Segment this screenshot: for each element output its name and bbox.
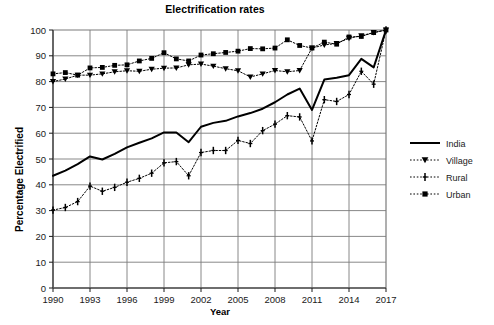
x-axis-ticks: 1990199319961999200220052008201120142017 xyxy=(42,288,396,305)
marker-square xyxy=(285,37,290,42)
marker-square xyxy=(162,50,167,55)
marker-square xyxy=(347,35,352,40)
marker-square xyxy=(186,59,191,64)
marker-square xyxy=(75,73,80,78)
y-tick-label: 50 xyxy=(35,154,46,165)
x-tick-label: 2005 xyxy=(227,294,248,305)
x-tick-label: 2017 xyxy=(375,294,396,305)
marker-square xyxy=(211,51,216,56)
marker-square xyxy=(248,46,253,51)
legend-item-india[interactable]: India xyxy=(410,139,466,149)
y-tick-label: 80 xyxy=(35,76,46,87)
y-tick-label: 90 xyxy=(35,50,46,61)
legend-item-village[interactable]: Village xyxy=(410,156,473,166)
marker-square xyxy=(359,34,364,39)
marker-square xyxy=(174,56,179,61)
marker-triangle-down xyxy=(247,74,253,79)
y-tick-label: 40 xyxy=(35,179,46,190)
marker-square xyxy=(236,49,241,54)
marker-square xyxy=(273,46,278,51)
marker-square xyxy=(63,70,68,75)
marker-square xyxy=(199,53,204,58)
marker-square xyxy=(223,50,228,55)
x-tick-label: 2002 xyxy=(190,294,211,305)
marker-square xyxy=(384,28,389,33)
series-urban xyxy=(51,28,389,78)
legend-item-urban[interactable]: Urban xyxy=(410,190,471,200)
legend-label-village: Village xyxy=(446,156,473,166)
marker-square xyxy=(422,191,427,196)
x-tick-label: 1993 xyxy=(79,294,100,305)
electrification-rates-chart: Electrification rates Percentage Electri… xyxy=(0,0,494,325)
marker-square xyxy=(137,59,142,64)
marker-square xyxy=(371,30,376,35)
y-tick-label: 10 xyxy=(35,257,46,268)
marker-square xyxy=(100,65,105,70)
y-tick-label: 70 xyxy=(35,102,46,113)
marker-square xyxy=(297,43,302,48)
x-tick-label: 2014 xyxy=(338,294,359,305)
marker-square xyxy=(112,63,117,68)
x-tick-label: 2008 xyxy=(264,294,285,305)
y-tick-label: 30 xyxy=(35,205,46,216)
legend-label-rural: Rural xyxy=(446,173,468,183)
marker-square xyxy=(260,46,265,51)
y-tick-label: 0 xyxy=(41,283,46,294)
plot-area: 0102030405060708090100199019931996199920… xyxy=(0,0,494,325)
legend-item-rural[interactable]: Rural xyxy=(410,173,468,183)
y-axis-ticks: 0102030405060708090100 xyxy=(30,25,53,294)
x-tick-label: 1990 xyxy=(42,294,63,305)
legend-label-urban: Urban xyxy=(446,190,471,200)
legend-label-india: India xyxy=(446,139,466,149)
marker-square xyxy=(149,56,154,61)
marker-triangle-down xyxy=(235,68,241,73)
series-rural xyxy=(51,26,388,213)
x-tick-label: 1999 xyxy=(153,294,174,305)
marker-square xyxy=(88,66,93,71)
y-tick-label: 20 xyxy=(35,231,46,242)
y-tick-label: 100 xyxy=(30,25,46,36)
x-tick-label: 2011 xyxy=(302,294,322,305)
marker-square xyxy=(51,71,56,76)
marker-square xyxy=(334,42,339,47)
y-tick-label: 60 xyxy=(35,128,46,139)
x-tick-label: 1996 xyxy=(116,294,137,305)
marker-square xyxy=(310,46,315,51)
marker-square xyxy=(322,40,327,45)
series-line-rural xyxy=(53,30,386,210)
legend: IndiaVillageRuralUrban xyxy=(410,139,473,200)
marker-square xyxy=(125,62,130,67)
